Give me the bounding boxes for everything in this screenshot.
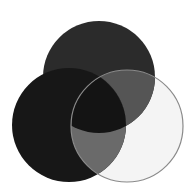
venn-diagram xyxy=(0,0,191,195)
venn-diagram-svg xyxy=(0,0,191,195)
